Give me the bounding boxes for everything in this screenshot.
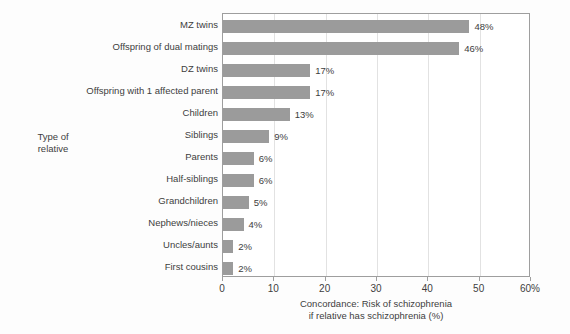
category-label: First cousins [2,262,218,272]
x-tick-mark-50 [479,277,480,281]
x-tick-mark-60 [530,277,531,281]
x-tick-mark-30 [376,277,377,281]
category-label: Half-siblings [2,174,218,184]
bar-value-label: 17% [315,64,334,77]
category-label: MZ twins [2,20,218,30]
x-tick-label-60: 60% [520,283,540,295]
bar [223,196,249,209]
category-label: Offspring of dual matings [2,42,218,52]
category-label: Grandchildren [2,196,218,206]
x-tick-mark-40 [427,277,428,281]
x-tick-mark-10 [273,277,274,281]
bar [223,20,469,33]
plot-area: 48%46%17%17%13%9%6%6%5%4%2%2% [222,13,530,277]
bar-value-label: 4% [249,218,263,231]
x-tick-label-10: 10 [268,283,279,295]
bar-value-label: 6% [259,174,273,187]
bar-value-label: 48% [474,20,493,33]
x-tick-label-50: 50 [473,283,484,295]
x-tick-label-0: 0 [219,283,225,295]
bar-value-label: 9% [274,130,288,143]
bar [223,262,233,275]
x-axis-title-line-2: if relative has schizophrenia (%) [222,310,530,322]
x-axis-title: Concordance: Risk of schizophrenia if re… [222,298,530,321]
category-label: Offspring with 1 affected parent [2,86,218,96]
x-tick-label-20: 20 [319,283,330,295]
bar-value-label: 6% [259,152,273,165]
bar [223,64,310,77]
bar-value-label: 5% [254,196,268,209]
x-tick-label-40: 40 [422,283,433,295]
bar [223,86,310,99]
category-label: Siblings [2,130,218,140]
bar [223,130,269,143]
category-label: Parents [2,152,218,162]
bar-value-label: 2% [238,240,252,253]
bar-value-label: 13% [295,108,314,121]
bar [223,218,244,231]
category-label: Uncles/aunts [2,240,218,250]
category-label: DZ twins [2,64,218,74]
x-axis-title-line-1: Concordance: Risk of schizophrenia [222,298,530,310]
bar-value-label: 17% [315,86,334,99]
bar [223,174,254,187]
x-tick-label-30: 30 [370,283,381,295]
category-label: Children [2,108,218,118]
bar [223,42,459,55]
bar-value-label: 46% [464,42,483,55]
schizophrenia-concordance-bar-chart: Type of relative MZ twinsOffspring of du… [0,0,570,334]
x-tick-mark-0 [222,277,223,281]
x-tick-mark-20 [325,277,326,281]
bar-value-label: 2% [238,262,252,275]
category-label: Nephews/nieces [2,218,218,228]
category-axis-labels: MZ twinsOffspring of dual matingsDZ twin… [0,13,218,277]
bar [223,152,254,165]
bar [223,240,233,253]
bar [223,108,290,121]
